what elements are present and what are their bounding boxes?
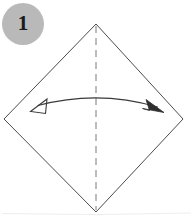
fold-arrow-left-head-icon	[31, 99, 48, 114]
fold-arrow-right-head-icon	[143, 100, 165, 113]
fold-arrow-arc	[38, 98, 158, 107]
origami-diagram-canvas: 1	[0, 0, 193, 218]
step-number-label: 1	[18, 11, 29, 35]
paper-outline-diamond	[4, 24, 183, 212]
page-bottom-edge	[2, 213, 191, 215]
origami-step-figure: 1	[0, 0, 193, 218]
